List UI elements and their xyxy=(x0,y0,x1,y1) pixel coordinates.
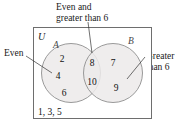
venn-canvas: U A B 2 4 6 8 10 7 9 1, 3, 5 xyxy=(0,0,183,131)
set-b-label: B xyxy=(128,36,134,46)
venn-diagram-figure: Even and greater than 6 Even Greater tha… xyxy=(0,0,183,131)
element-left-1: 2 xyxy=(60,54,65,64)
universal-set-label: U xyxy=(38,31,46,42)
element-right-1: 7 xyxy=(111,58,116,68)
element-left-3: 6 xyxy=(62,88,67,98)
element-intersection-2: 10 xyxy=(87,77,97,87)
set-b-circle xyxy=(84,44,143,103)
element-right-2: 9 xyxy=(114,83,119,93)
element-left-2: 4 xyxy=(56,71,61,81)
outside-elements: 1, 3, 5 xyxy=(38,107,62,117)
element-intersection-1: 8 xyxy=(90,58,95,68)
set-a-label: A xyxy=(52,40,59,50)
